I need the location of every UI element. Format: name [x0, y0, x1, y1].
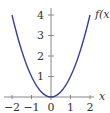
- x-tick-label: −2: [4, 101, 20, 113]
- curve-label: f(x: [94, 8, 110, 21]
- x-tick-label: 0: [48, 101, 55, 113]
- x-tick-label: 2: [87, 101, 94, 113]
- y-tick-label: 2: [37, 50, 44, 63]
- y-tick-label: 1: [37, 70, 44, 83]
- chart-area: −2 −1 0 1 2 1 2 3 4 x f(x: [0, 0, 110, 113]
- x-tick-label: 1: [67, 101, 74, 113]
- x-axis-label: x: [99, 90, 106, 103]
- x-tick-label: −1: [23, 101, 39, 113]
- plot-svg: −2 −1 0 1 2 1 2 3 4 x f(x: [0, 0, 110, 113]
- y-tick-label: 3: [37, 29, 44, 42]
- y-tick-label: 4: [37, 9, 44, 22]
